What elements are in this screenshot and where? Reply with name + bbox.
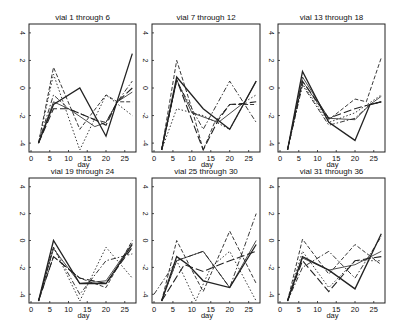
y-tick-label: 0 [268, 239, 275, 243]
series-line [288, 58, 382, 150]
y-tick-label: -2 [142, 112, 149, 118]
y-tick-label: 2 [268, 58, 275, 62]
x-tick-label: 25 [370, 154, 378, 163]
series-line [162, 60, 257, 150]
panel-title: vial 7 through 12 [176, 13, 236, 22]
x-tick-label: 0 [278, 305, 282, 314]
x-tick-label: 0 [152, 305, 156, 314]
y-tick-label: 2 [19, 212, 26, 216]
x-tick-label: 25 [121, 305, 129, 314]
panel-3: vial 13 through 18-4-20240510152025day [268, 13, 385, 169]
x-tick-label: 0 [278, 154, 282, 163]
y-tick-label: 0 [268, 86, 275, 90]
x-tick-label: 5 [171, 305, 175, 314]
plot-frame [278, 24, 385, 152]
x-tick-label: 10 [64, 154, 72, 163]
series-line [39, 247, 133, 301]
series-group [162, 60, 257, 150]
x-tick-label: 5 [297, 154, 301, 163]
y-tick-label: -2 [268, 264, 275, 270]
panel-title: vial 13 through 18 [300, 13, 364, 22]
y-tick-label: -4 [19, 140, 26, 146]
x-tick-label: 25 [244, 305, 252, 314]
series-group [288, 58, 382, 150]
panel-4: vial 19 through 24-4-20240510152025day [19, 167, 136, 320]
x-tick-label: 10 [188, 305, 196, 314]
x-tick-label: 20 [226, 305, 234, 314]
panel-2: vial 7 through 12-4-20240510152025day [142, 13, 260, 169]
series-group [154, 214, 256, 301]
x-tick-label: 10 [313, 305, 321, 314]
series-line [162, 80, 257, 150]
series-line [288, 81, 382, 150]
series-group [39, 54, 133, 150]
y-tick-label: 2 [19, 58, 26, 62]
series-line [288, 85, 382, 150]
x-tick-label: 25 [244, 154, 252, 163]
y-tick-label: -4 [142, 291, 149, 297]
x-tick-label: 5 [48, 154, 52, 163]
x-tick-label: 20 [102, 154, 110, 163]
y-tick-label: 4 [268, 31, 275, 35]
panel-title: vial 31 through 36 [300, 167, 364, 176]
x-tick-label: 5 [48, 305, 52, 314]
panel-title: vial 25 through 30 [174, 167, 238, 176]
y-tick-label: -4 [19, 291, 26, 297]
figure: vial 1 through 6-4-20240510152025dayvial… [0, 0, 403, 333]
y-tick-label: 4 [268, 185, 275, 189]
x-tick-label: 0 [29, 154, 33, 163]
y-tick-label: 0 [142, 86, 149, 90]
x-tick-label: 25 [370, 305, 378, 314]
x-axis-label: day [201, 311, 213, 320]
x-tick-label: 10 [313, 154, 321, 163]
y-tick-label: 4 [142, 31, 149, 35]
y-tick-label: 0 [19, 86, 26, 90]
series-line [288, 84, 382, 150]
y-tick-label: -4 [142, 140, 149, 146]
panel-title: vial 19 through 24 [51, 167, 115, 176]
y-tick-label: -4 [268, 291, 275, 297]
y-tick-label: 4 [19, 31, 26, 35]
x-tick-label: 20 [351, 154, 359, 163]
x-tick-label: 25 [121, 154, 129, 163]
y-tick-label: 2 [142, 212, 149, 216]
series-line [39, 247, 133, 301]
series-line [39, 243, 133, 301]
y-tick-label: -2 [19, 112, 26, 118]
plot-frame [29, 24, 136, 152]
x-axis-label: day [77, 311, 89, 320]
x-tick-label: 10 [188, 154, 196, 163]
series-group [288, 234, 382, 301]
x-tick-label: 5 [171, 154, 175, 163]
panel-title: vial 1 through 6 [55, 13, 110, 22]
x-tick-label: 0 [152, 154, 156, 163]
series-group [39, 241, 133, 302]
x-axis-label: day [326, 311, 338, 320]
panel-1: vial 1 through 6-4-20240510152025day [19, 13, 136, 169]
series-line [162, 241, 257, 302]
x-tick-label: 10 [64, 305, 72, 314]
x-tick-label: 20 [102, 305, 110, 314]
x-tick-label: 20 [226, 154, 234, 163]
x-tick-label: 5 [297, 305, 301, 314]
panel-6: vial 31 through 36-4-20240510152025day [268, 167, 385, 320]
y-tick-label: -2 [19, 264, 26, 270]
y-tick-label: 2 [142, 58, 149, 62]
y-tick-label: 0 [19, 239, 26, 243]
y-tick-label: -2 [142, 264, 149, 270]
series-line [39, 247, 133, 301]
y-tick-label: 2 [268, 212, 275, 216]
x-tick-label: 0 [29, 305, 33, 314]
y-tick-label: 4 [142, 185, 149, 189]
plot-frame [29, 178, 136, 303]
y-tick-label: -2 [268, 112, 275, 118]
y-tick-label: 4 [19, 185, 26, 189]
panel-5: vial 25 through 30-4-20240510152025day [142, 167, 260, 320]
x-tick-label: 20 [351, 305, 359, 314]
y-tick-label: -4 [268, 140, 275, 146]
y-tick-label: 0 [142, 239, 149, 243]
